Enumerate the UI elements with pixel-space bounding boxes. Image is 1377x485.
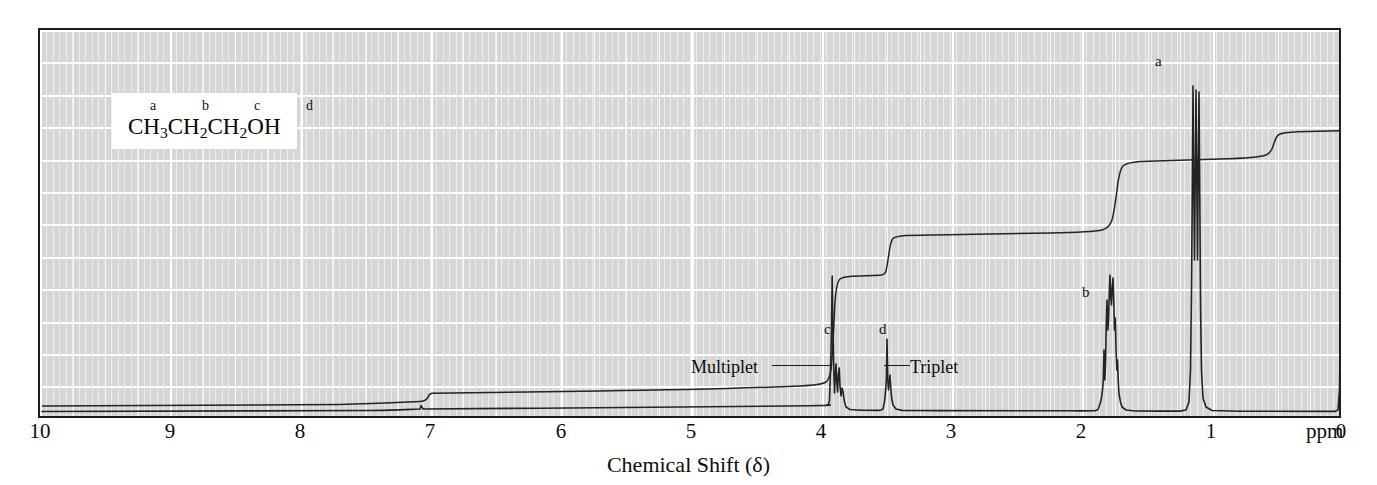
peak-c-multiplet bbox=[826, 276, 860, 410]
tick-label-5: 5 bbox=[686, 421, 697, 442]
tick-label-9: 9 bbox=[165, 421, 176, 442]
tick-label-10: 10 bbox=[30, 421, 51, 442]
tick-label-1: 1 bbox=[1206, 421, 1217, 442]
formula-segment-b: CH2 bbox=[168, 114, 208, 139]
tick-label-6: 6 bbox=[556, 421, 567, 442]
structure-letter-c: c bbox=[254, 99, 260, 113]
axis-title: Chemical Shift (δ) bbox=[0, 452, 1377, 478]
tick-label-8: 8 bbox=[295, 421, 306, 442]
peak-tms-singlet bbox=[1335, 288, 1341, 411]
axis-tick-labels: 10 9 8 7 6 5 4 3 2 1 0 ppm bbox=[0, 421, 1377, 451]
structure-letter-d: d bbox=[306, 99, 313, 113]
structure-formula: CH3CH2CH2OH bbox=[128, 115, 281, 141]
nmr-spectrum-figure: abcd CH3CH2CH2OH a b c d Multiplet Tripl… bbox=[0, 0, 1377, 485]
leader-line-triplet bbox=[884, 365, 910, 366]
tick-label-4: 4 bbox=[816, 421, 827, 442]
tick-label-7: 7 bbox=[425, 421, 436, 442]
structure-caption-box: abcd CH3CH2CH2OH bbox=[112, 93, 297, 149]
formula-segment-d: OH bbox=[247, 114, 280, 139]
formula-segment-c: CH2 bbox=[208, 114, 248, 139]
structure-letter-a: a bbox=[150, 99, 156, 113]
peak-label-c: c bbox=[824, 322, 831, 337]
tick-label-2: 2 bbox=[1076, 421, 1087, 442]
structure-letter-b: b bbox=[202, 99, 209, 113]
peak-a-triplet bbox=[1160, 86, 1240, 411]
annotation-multiplet: Multiplet bbox=[691, 358, 758, 376]
peak-label-a: a bbox=[1155, 54, 1162, 69]
structure-proton-letters: abcd bbox=[128, 99, 281, 113]
axis-unit-label: ppm bbox=[1306, 421, 1343, 442]
peak-b-sextet bbox=[1080, 275, 1160, 411]
formula-segment-a: CH3 bbox=[128, 114, 168, 139]
tick-label-3: 3 bbox=[946, 421, 957, 442]
annotation-triplet: Triplet bbox=[910, 358, 958, 376]
peak-label-b: b bbox=[1082, 285, 1090, 300]
plot-area: abcd CH3CH2CH2OH bbox=[38, 28, 1341, 418]
peak-label-d: d bbox=[879, 322, 887, 337]
leader-line-multiplet bbox=[772, 365, 830, 366]
